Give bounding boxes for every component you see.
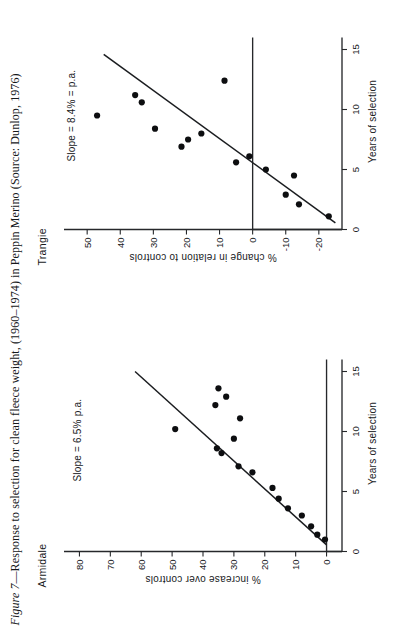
y-tick-label-armidale-7: 70 xyxy=(105,559,116,570)
y-axis-title-trangie: % change in relation to controls xyxy=(129,251,277,262)
data-point-trangie-8 xyxy=(185,136,191,142)
data-point-trangie-5 xyxy=(233,159,239,165)
chart-panels: Armidale Slope = 6.5% p.a. 0102030405060… xyxy=(30,0,412,639)
figure-caption-dash: — xyxy=(8,571,22,583)
data-point-armidale-9 xyxy=(218,450,224,456)
data-point-armidale-7 xyxy=(249,469,255,475)
y-tick-label-armidale-5: 50 xyxy=(167,559,178,570)
data-point-armidale-10 xyxy=(214,445,220,451)
data-point-trangie-9 xyxy=(198,130,204,136)
y-tick-label-armidale-2: 20 xyxy=(259,559,270,570)
x-tick-label-trangie-1: 5 xyxy=(350,166,361,171)
data-point-armidale-4 xyxy=(285,505,291,511)
y-tick-label-trangie-0: -20 xyxy=(313,237,324,251)
y-tick-label-trangie-5: 30 xyxy=(148,237,159,248)
data-point-trangie-2 xyxy=(283,191,289,197)
x-tick-label-armidale-3: 15 xyxy=(350,366,361,377)
data-point-armidale-5 xyxy=(276,495,282,501)
data-point-trangie-3 xyxy=(291,172,297,178)
data-point-trangie-10 xyxy=(152,125,158,131)
data-point-trangie-14 xyxy=(221,77,227,83)
regression-line-armidale xyxy=(135,371,327,544)
data-point-trangie-7 xyxy=(178,143,184,149)
x-tick-label-trangie-3: 15 xyxy=(350,44,361,55)
panel-title-armidale: Armidale xyxy=(36,543,48,587)
x-axis-title-armidale: Years of selection xyxy=(367,401,378,484)
y-tick-label-trangie-1: -10 xyxy=(280,237,291,251)
x-tick-label-trangie-2: 10 xyxy=(350,104,361,115)
y-tick-label-trangie-6: 40 xyxy=(115,237,126,248)
y-tick-label-armidale-4: 40 xyxy=(197,559,208,570)
data-point-armidale-14 xyxy=(212,402,218,408)
data-point-armidale-2 xyxy=(308,523,314,529)
figure-caption: Figure 7—Response to selection for clean… xyxy=(8,73,23,625)
plot-area-armidale: 01020304050607080051015Years of selectio… xyxy=(56,353,356,585)
y-tick-label-trangie-7: 50 xyxy=(82,237,93,248)
chart-panel-trangie: Trangie Slope = 8.4% = p.a. -20-10010203… xyxy=(30,9,412,309)
panel-title-trangie: Trangie xyxy=(36,228,48,265)
y-tick-label-trangie-2: 0 xyxy=(247,237,258,242)
y-tick-label-trangie-4: 20 xyxy=(181,237,192,248)
data-point-armidale-3 xyxy=(299,512,305,518)
data-point-trangie-13 xyxy=(132,92,138,98)
chart-panel-armidale: Armidale Slope = 6.5% p.a. 0102030405060… xyxy=(30,331,412,631)
x-axis-title-trangie: Years of selection xyxy=(367,79,378,162)
data-point-armidale-16 xyxy=(215,385,221,391)
data-point-armidale-1 xyxy=(314,531,320,537)
y-tick-label-trangie-3: 10 xyxy=(214,237,225,248)
scatter-plot-armidale: 01020304050607080051015Years of selectio… xyxy=(56,353,386,585)
scatter-plot-trangie: -20-1001020304050051015Years of selectio… xyxy=(56,31,386,263)
y-tick-label-armidale-6: 60 xyxy=(136,559,147,570)
regression-line-trangie xyxy=(104,54,336,223)
figure-number: Figure 7 xyxy=(8,583,22,625)
x-tick-label-armidale-1: 5 xyxy=(350,488,361,493)
plot-area-trangie: -20-1001020304050051015Years of selectio… xyxy=(56,31,356,263)
data-point-armidale-12 xyxy=(172,426,178,432)
y-tick-label-armidale-1: 10 xyxy=(290,559,301,570)
x-tick-label-armidale-0: 0 xyxy=(350,548,361,553)
y-axis-title-armidale: % increase over controls xyxy=(145,573,261,584)
data-point-armidale-11 xyxy=(231,435,237,441)
data-point-trangie-0 xyxy=(326,213,332,219)
y-tick-label-armidale-3: 30 xyxy=(228,559,239,570)
data-point-trangie-11 xyxy=(94,112,100,118)
data-point-trangie-12 xyxy=(139,99,145,105)
x-tick-label-armidale-2: 10 xyxy=(350,426,361,437)
y-tick-label-armidale-0: 0 xyxy=(321,559,332,564)
data-point-trangie-4 xyxy=(263,166,269,172)
rotated-figure-canvas: Figure 7—Response to selection for clean… xyxy=(0,0,412,639)
data-point-trangie-1 xyxy=(296,201,302,207)
data-point-armidale-15 xyxy=(223,393,229,399)
figure-caption-text: Response to selection for clean fleece w… xyxy=(8,73,22,571)
data-point-trangie-6 xyxy=(246,153,252,159)
data-point-armidale-13 xyxy=(237,415,243,421)
x-tick-label-trangie-0: 0 xyxy=(350,226,361,231)
data-point-armidale-6 xyxy=(269,484,275,490)
y-tick-label-armidale-8: 80 xyxy=(74,559,85,570)
